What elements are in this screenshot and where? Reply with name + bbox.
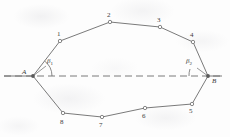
vertex-marker-3 (158, 25, 161, 28)
angle-label-beta1: β1 (47, 58, 53, 66)
vertex-marker-4 (191, 40, 194, 43)
angle-label-beta2: β2 (186, 58, 192, 66)
endpoint-label-A: A (22, 69, 26, 76)
vertex-label-1: 1 (57, 31, 61, 38)
vertex-marker-2 (108, 20, 111, 23)
edge-2-3 (110, 22, 160, 27)
vertex-label-4: 4 (190, 32, 194, 39)
figure-canvas: 1 2 3 4 5 6 7 8 A B β1 β2 (0, 0, 230, 137)
endpoint-marker-B (206, 74, 210, 78)
polygon-diagram-svg (0, 0, 230, 137)
vertex-marker-5 (190, 102, 193, 105)
vertex-marker-8 (61, 111, 64, 114)
vertex-label-3: 3 (157, 17, 161, 24)
angle-label-beta2-subscript: 2 (190, 61, 193, 66)
edge-6-7 (102, 108, 145, 117)
vertex-label-6: 6 (142, 113, 146, 120)
edge-8-A (33, 76, 63, 113)
endpoint-label-B: B (212, 78, 216, 85)
vertex-label-7: 7 (99, 122, 103, 129)
vertex-label-8: 8 (60, 119, 64, 126)
vertex-marker-1 (58, 39, 61, 42)
angle-arc-beta2 (189, 69, 190, 76)
vertex-marker-6 (143, 106, 146, 109)
vertex-label-2: 2 (107, 12, 111, 19)
edge-B-5 (192, 76, 208, 104)
angle-label-beta1-subscript: 1 (51, 61, 54, 66)
edge-1-2 (60, 22, 110, 41)
vertex-markers (58, 20, 194, 118)
edge-7-8 (63, 113, 102, 117)
endpoint-marker-A (31, 74, 35, 78)
vertex-label-5: 5 (189, 108, 193, 115)
edge-3-4 (160, 27, 193, 42)
vertex-marker-7 (100, 115, 103, 118)
edge-5-6 (145, 104, 192, 108)
